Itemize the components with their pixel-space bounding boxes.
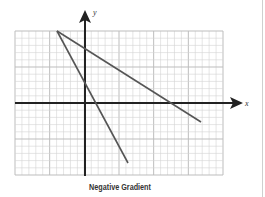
- line-steep: [57, 31, 128, 163]
- caption: Negative Gradient: [18, 182, 222, 192]
- y-axis-label: y: [92, 8, 97, 17]
- graph: x y: [0, 0, 265, 197]
- line-shallow: [57, 31, 201, 122]
- x-axis-label: x: [244, 99, 249, 108]
- divider: [262, 0, 263, 197]
